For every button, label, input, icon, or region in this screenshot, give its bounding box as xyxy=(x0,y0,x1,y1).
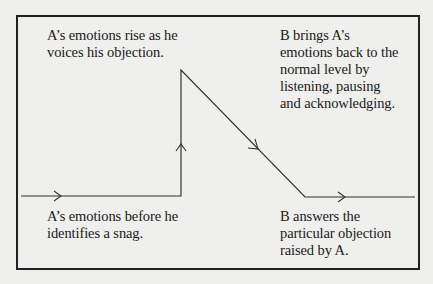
label-line: listening, pausing xyxy=(280,78,430,95)
label-line: A’s emotions before he xyxy=(47,208,197,225)
label-line: emotions back to the xyxy=(280,44,430,61)
label-line: and acknowledging. xyxy=(280,95,430,112)
label-line: B answers the xyxy=(280,208,430,225)
label-line: normal level by xyxy=(280,61,430,78)
label-line: particular objection xyxy=(280,225,430,242)
label-line: raised by A. xyxy=(280,242,430,259)
label-emotions-rise: A’s emotions rise as he voices his objec… xyxy=(47,27,197,61)
label-emotions-before: A’s emotions before he identifies a snag… xyxy=(47,208,197,242)
label-line: B brings A’s xyxy=(280,27,430,44)
label-line: A’s emotions rise as he xyxy=(47,27,197,44)
label-back-to-normal: B brings A’s emotions back to the normal… xyxy=(280,27,430,112)
label-line: identifies a snag. xyxy=(47,225,197,242)
label-line: voices his objection. xyxy=(47,44,197,61)
label-b-answers: B answers the particular objection raise… xyxy=(280,208,430,259)
